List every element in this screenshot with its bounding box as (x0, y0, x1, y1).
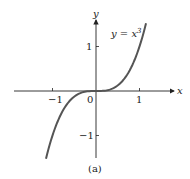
y-tick-label-1: 1 (86, 41, 92, 52)
y-axis-label: y (92, 8, 99, 19)
x-tick-label-0: 0 (87, 94, 93, 105)
equation-superscript: 3 (137, 27, 142, 35)
equation-text: y = x (110, 28, 137, 39)
curve-equation-label: y = x3 (110, 27, 142, 39)
x-tick-label-1: 1 (136, 94, 142, 105)
y-tick-label-neg1: −1 (79, 130, 94, 141)
x-axis-label: x (177, 85, 183, 96)
x-tick-label-neg1: −1 (48, 94, 63, 105)
cubic-function-chart: −1 0 1 1 −1 x y y = x3 (a) (0, 0, 190, 179)
figure-caption: (a) (88, 163, 102, 174)
